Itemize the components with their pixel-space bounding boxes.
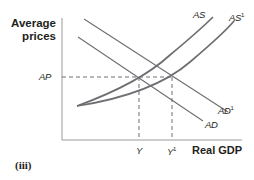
as1-label-base: AS xyxy=(229,12,241,23)
as-curve xyxy=(77,17,213,106)
y-label: Y xyxy=(136,146,142,156)
y-axis-label-line2: prices xyxy=(4,30,56,43)
ad-curve xyxy=(78,37,203,121)
y-axis-label: Average prices xyxy=(4,17,56,43)
panel-label: (iii) xyxy=(15,160,32,171)
as1-curve xyxy=(77,21,234,106)
as-label: AS xyxy=(193,10,205,20)
x-axis-label: Real GDP xyxy=(192,145,242,156)
ad1-label-sup: 1 xyxy=(231,105,234,111)
y-axis-label-line1: Average xyxy=(4,17,56,30)
ad-label: AD xyxy=(205,120,218,130)
ad1-label-base: AD xyxy=(218,105,231,116)
ap-label: AP xyxy=(39,72,51,82)
as1-label: AS1 xyxy=(229,12,244,23)
y1-label-sup: 1 xyxy=(173,146,176,152)
ad-as-diagram: Average prices AP AS AS1 AD1 AD Y Y1 Rea… xyxy=(0,0,254,180)
ad1-label: AD1 xyxy=(218,105,234,116)
as1-label-sup: 1 xyxy=(241,12,244,18)
y1-label: Y1 xyxy=(167,146,176,157)
